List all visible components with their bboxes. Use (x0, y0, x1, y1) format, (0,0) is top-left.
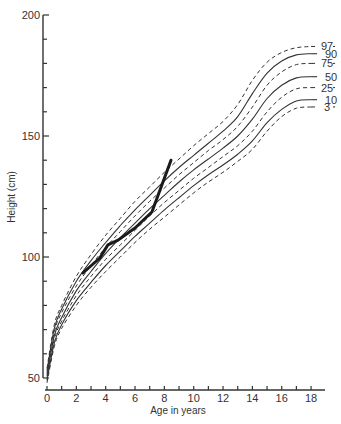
y-axis-title: Height (cm) (6, 171, 17, 223)
percentile-curve-97 (47, 47, 311, 369)
x-tick-label: 8 (161, 392, 167, 404)
percentile-label-25: 25 (321, 82, 333, 94)
y-tick-label: 50 (28, 372, 40, 384)
growth-chart: 50100150200024681012141618 9790755025103… (0, 0, 341, 424)
percentile-curve-10 (47, 100, 311, 381)
y-tick-label: 150 (22, 130, 40, 142)
patient-height-line (83, 160, 171, 273)
x-tick-label: 12 (217, 392, 229, 404)
percentile-curve-3 (47, 107, 311, 383)
percentile-label-3: 3 (324, 101, 330, 113)
x-tick-label: 18 (305, 392, 317, 404)
x-tick-label: 10 (188, 392, 200, 404)
x-axis-title: Age in years (150, 405, 206, 416)
x-tick-label: 6 (132, 392, 138, 404)
x-tick-label: 16 (276, 392, 288, 404)
x-tick-label: 4 (103, 392, 109, 404)
percentile-label-75: 75 (321, 57, 333, 69)
patient-line (83, 160, 171, 273)
axes: 50100150200024681012141618 (22, 9, 325, 404)
x-tick-label: 14 (246, 392, 258, 404)
y-tick-label: 200 (22, 9, 40, 21)
percentile-curve-75 (47, 63, 311, 373)
y-tick-label: 100 (22, 251, 40, 263)
percentile-curve-25 (47, 88, 311, 378)
x-tick-label: 0 (44, 392, 50, 404)
percentile-curves (47, 46, 317, 382)
percentile-curve-50 (47, 77, 311, 376)
percentile-labels: 9790755025103 (321, 40, 337, 113)
percentile-curve-90 (47, 54, 311, 371)
x-tick-label: 2 (73, 392, 79, 404)
